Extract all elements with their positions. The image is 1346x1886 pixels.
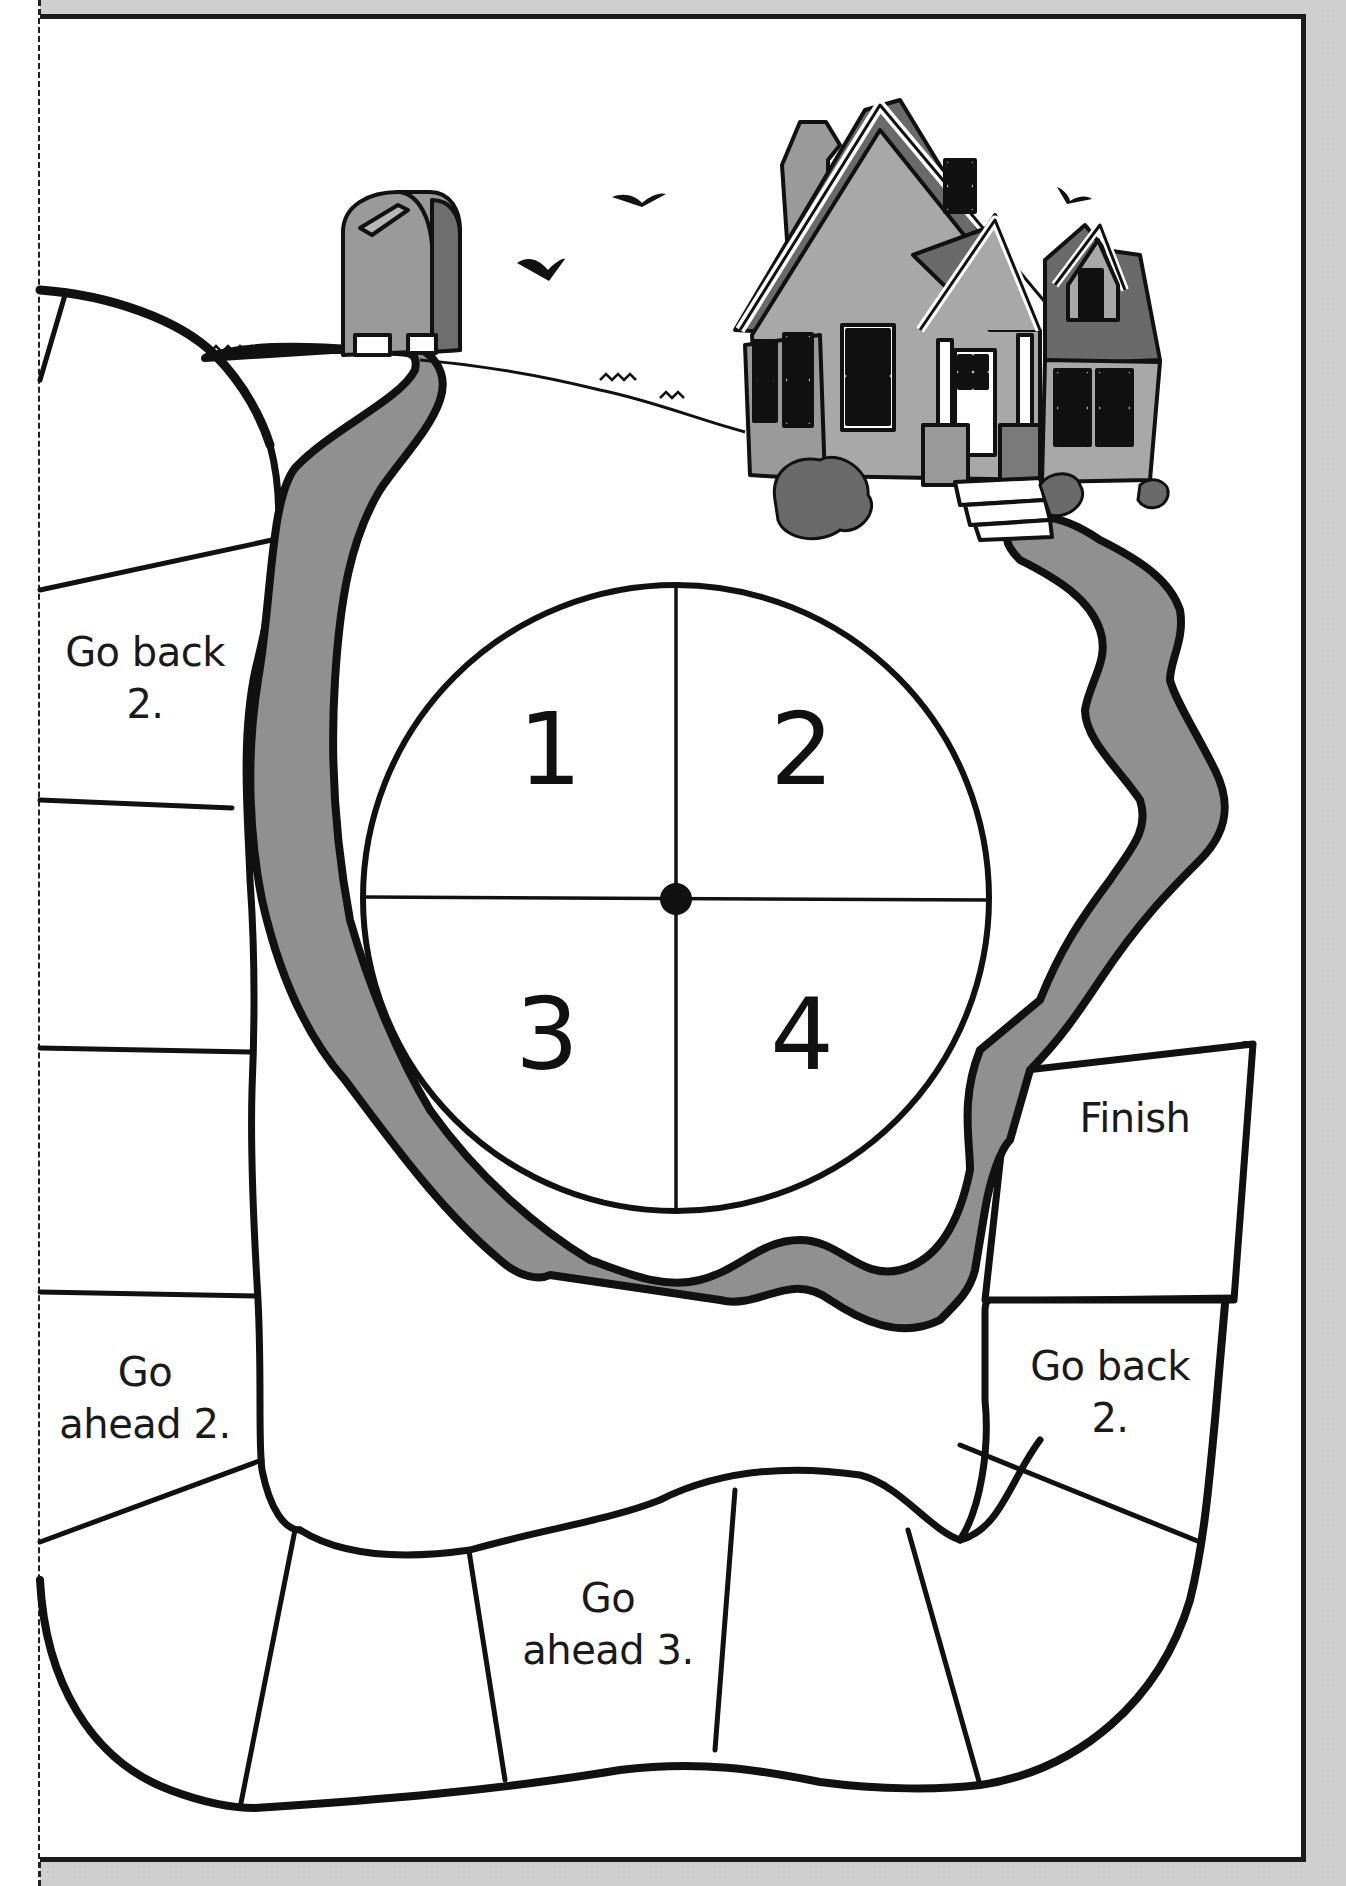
spinner-section-2: 2 bbox=[742, 700, 862, 800]
space-label-line: 2. bbox=[1010, 1392, 1210, 1444]
space-go-back-right: Go back 2. bbox=[1010, 1340, 1210, 1444]
space-label-line: ahead 2. bbox=[45, 1398, 245, 1450]
space-label-line: Go bbox=[508, 1572, 708, 1624]
spinner-center-pin bbox=[660, 883, 692, 915]
mailbox-illustration bbox=[343, 192, 460, 355]
bird-icon bbox=[517, 259, 565, 281]
space-label-line: Go back bbox=[50, 626, 240, 678]
space-label-line: Go back bbox=[1010, 1340, 1210, 1392]
space-go-ahead-3: Go ahead 3. bbox=[508, 1572, 708, 1676]
hill-horizon bbox=[205, 348, 745, 432]
bird-icon bbox=[612, 193, 666, 207]
space-label-line: Go bbox=[45, 1346, 245, 1398]
spinner-section-3: 3 bbox=[487, 985, 607, 1085]
space-go-ahead-2: Go ahead 2. bbox=[45, 1346, 245, 1450]
space-finish: Finish bbox=[1060, 1092, 1210, 1144]
spinner[interactable] bbox=[363, 585, 989, 1211]
space-label-line: ahead 3. bbox=[508, 1624, 708, 1676]
space-label-line: 2. bbox=[50, 678, 240, 730]
bird-icon bbox=[1057, 187, 1092, 204]
spinner-section-4: 4 bbox=[742, 985, 862, 1085]
spinner-section-1: 1 bbox=[490, 700, 610, 800]
space-go-back-left: Go back 2. bbox=[50, 626, 240, 730]
